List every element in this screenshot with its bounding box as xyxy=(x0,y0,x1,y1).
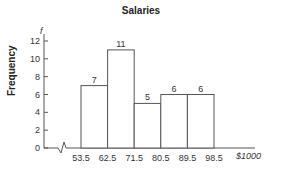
plot-area: 02468101271156653.562.571.580.589.598.5 xyxy=(0,0,282,172)
histogram-bar xyxy=(161,95,188,149)
histogram-chart: Salaries Frequency f $1000 0246810127115… xyxy=(0,0,282,172)
bar-value-label: 6 xyxy=(198,84,203,94)
histogram-bar xyxy=(187,95,214,149)
y-tick-label: 4 xyxy=(35,107,40,117)
y-tick-label: 12 xyxy=(30,36,40,46)
bar-value-label: 5 xyxy=(145,92,150,102)
x-tick-label: 62.5 xyxy=(99,153,117,163)
histogram-bar xyxy=(134,103,161,148)
bar-value-label: 6 xyxy=(172,84,177,94)
x-tick-label: 89.5 xyxy=(179,153,197,163)
x-tick-label: 71.5 xyxy=(125,153,143,163)
y-tick-label: 0 xyxy=(35,143,40,153)
histogram-bar xyxy=(81,86,108,148)
y-tick-label: 6 xyxy=(35,90,40,100)
x-tick-label: 80.5 xyxy=(152,153,170,163)
x-tick-label: 53.5 xyxy=(72,153,90,163)
bar-value-label: 7 xyxy=(92,75,97,85)
x-tick-label: 98.5 xyxy=(205,153,223,163)
histogram-bar xyxy=(108,50,135,148)
y-tick-label: 10 xyxy=(30,54,40,64)
bar-value-label: 11 xyxy=(116,39,125,49)
y-tick-label: 8 xyxy=(35,72,40,82)
y-tick-label: 2 xyxy=(35,125,40,135)
